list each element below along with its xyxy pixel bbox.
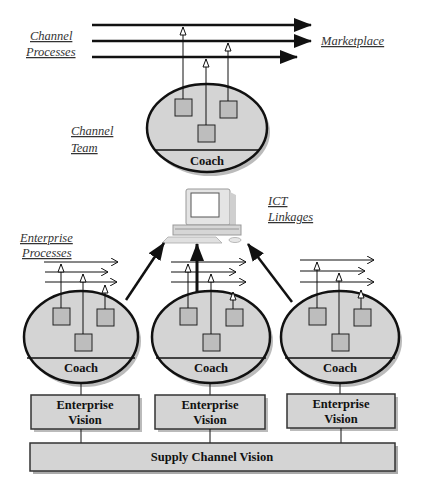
channel-team: Coach [147, 27, 270, 176]
enterprise-1-coach-label: Coach [64, 361, 98, 375]
enterprise-1-vision-line2: Vision [68, 413, 102, 427]
ict-label-2: Linkages [267, 210, 313, 224]
enterprise-2-coach-label: Coach [194, 361, 228, 375]
supply-channel-diagram: Channel Processes Marketplace Coach Chan… [0, 0, 421, 492]
channel-process-arrows [92, 25, 311, 57]
enterprise-3-vision-line1: Enterprise [313, 397, 370, 411]
enterprise-2-vision-line2: Vision [193, 413, 227, 427]
channel-team-label-2: Team [71, 141, 98, 155]
marketplace-label: Marketplace [320, 34, 385, 48]
enterprise-team-2: Coach [152, 262, 273, 395]
supply-channel-vision-box: Supply Channel Vision [30, 443, 398, 474]
enterprise-processes-label-1: Enterprise [19, 231, 73, 245]
enterprise-2-vision-line1: Enterprise [182, 398, 239, 412]
enterprise-vision-boxes: Enterprise Vision Enterprise Vision Ente… [31, 394, 398, 443]
enterprise-1-vision-line1: Enterprise [57, 398, 114, 412]
enterprise-team-3: Coach [281, 260, 402, 394]
enterprise-team-1: Coach [24, 262, 141, 395]
channel-processes-label-2: Processes [25, 45, 76, 59]
channel-processes-label-1: Channel [30, 29, 73, 43]
channel-team-label-1: Channel [71, 124, 114, 138]
enterprise-processes-label-2: Processes [21, 246, 72, 260]
computer-icon [162, 189, 241, 243]
ict-label-1: ICT [267, 194, 289, 208]
supply-channel-vision-label: Supply Channel Vision [151, 450, 273, 464]
channel-team-coach-label: Coach [190, 154, 224, 168]
enterprise-3-vision-line2: Vision [324, 412, 358, 426]
enterprise-3-coach-label: Coach [323, 361, 357, 375]
